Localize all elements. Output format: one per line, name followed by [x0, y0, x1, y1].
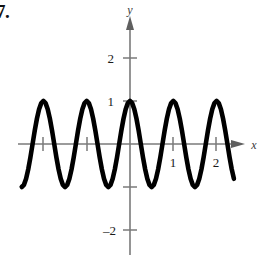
- x-axis-arrowhead: [231, 140, 245, 148]
- y-tick-label-2: 2: [108, 51, 115, 66]
- y-tick-label-neg-2: –2: [102, 223, 116, 238]
- x-tick-label-1: 1: [170, 155, 177, 170]
- x-tick-label-2: 2: [213, 155, 220, 170]
- x-axis-label: x: [250, 138, 257, 152]
- y-axis-label: y: [126, 3, 133, 17]
- y-axis-arrowhead: [126, 16, 134, 30]
- graph-figure: 2 1 –2 1 2 y x: [0, 0, 258, 263]
- y-tick-label-1: 1: [108, 94, 115, 109]
- figure-screenshot: 7. 2 1 –2 1 2 y x: [0, 0, 258, 263]
